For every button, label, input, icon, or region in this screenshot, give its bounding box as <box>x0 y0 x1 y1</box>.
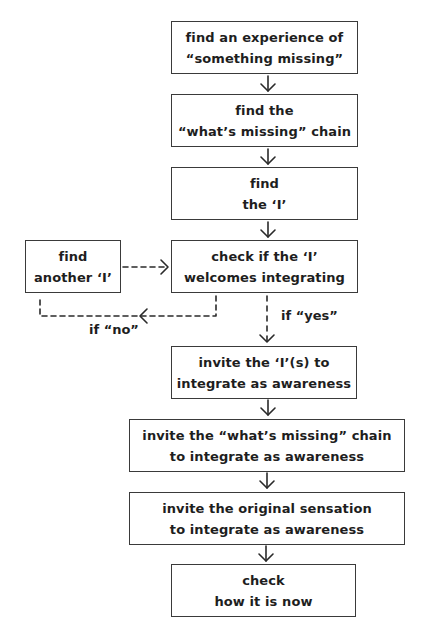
step-find-another-I: find another ‘I’ <box>25 240 121 293</box>
node-line: invite the original sensation <box>162 498 372 519</box>
edge-label-yes: if “yes” <box>281 308 338 323</box>
step-invite-sensation: invite the original sensation to integra… <box>129 492 405 545</box>
arrow-left-dashed-icon <box>40 296 216 323</box>
node-line: check <box>242 570 285 591</box>
node-line: find <box>58 246 87 267</box>
node-line: to integrate as awareness <box>170 519 364 540</box>
node-line: find an experience of <box>186 27 344 48</box>
arrow-down-icon <box>261 76 275 91</box>
step-find-I: find the ‘I’ <box>171 167 358 220</box>
node-line: integrate as awareness <box>177 373 351 394</box>
step-check-now: check how it is now <box>171 564 356 617</box>
arrow-down-icon <box>259 546 273 561</box>
node-line: how it is now <box>214 591 312 612</box>
step-find-chain: find the “what’s missing” chain <box>171 94 358 147</box>
node-line: invite the “what’s missing” chain <box>142 425 391 446</box>
edge-label-no: if “no” <box>89 322 139 337</box>
node-line: find <box>250 173 279 194</box>
arrow-yes-dashed-icon <box>260 296 274 342</box>
node-line: the ‘I’ <box>242 194 286 215</box>
node-line: find the <box>235 100 293 121</box>
node-line: “what’s missing” chain <box>178 121 351 142</box>
step-find-experience: find an experience of “something missing… <box>171 21 358 74</box>
step-invite-I: invite the ‘I’(s) to integrate as awaren… <box>171 346 357 399</box>
node-line: invite the ‘I’(s) to <box>198 352 329 373</box>
step-invite-chain: invite the “what’s missing” chain to int… <box>129 419 405 472</box>
node-line: “something missing” <box>186 48 344 69</box>
node-line: check if the ‘I’ <box>211 246 317 267</box>
arrow-down-icon <box>261 222 275 237</box>
arrow-down-icon <box>261 149 275 164</box>
arrow-down-icon <box>260 473 274 488</box>
node-line: to integrate as awareness <box>170 446 364 467</box>
step-check-welcomes: check if the ‘I’ welcomes integrating <box>171 240 358 293</box>
arrow-right-dashed-icon <box>123 260 168 274</box>
node-line: welcomes integrating <box>184 267 345 288</box>
node-line: another ‘I’ <box>34 267 112 288</box>
arrow-down-icon <box>261 400 275 415</box>
